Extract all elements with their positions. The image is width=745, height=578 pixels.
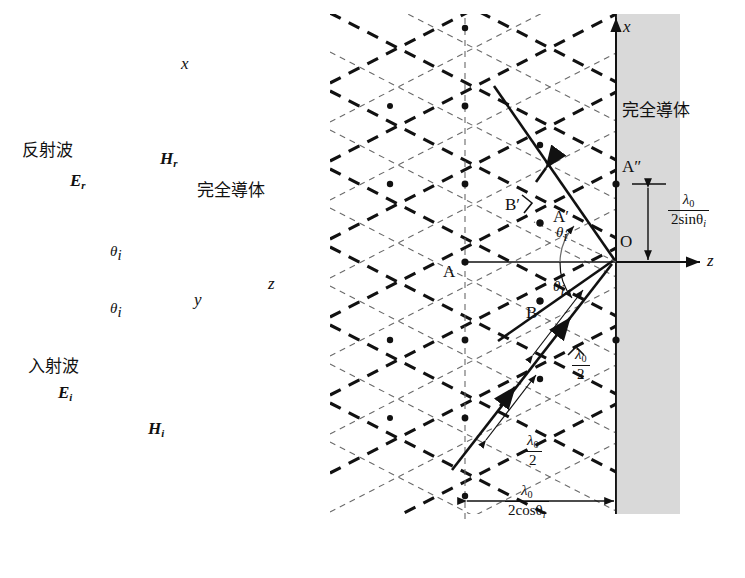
left-incident-wave-label: 入射波: [28, 358, 79, 375]
right-z-axis-label: z: [707, 252, 714, 269]
right-incident-arrow-1: [500, 387, 515, 406]
left-Er-label: Er: [70, 172, 86, 191]
lattice-thick-family: [330, 0, 618, 551]
dim-halfwave-lower: [486, 375, 536, 440]
dim-horizontal-label: λ0 2cosθi: [505, 483, 549, 520]
right-panel-group: [0, 0, 745, 578]
figure-vector-layer: [0, 0, 745, 578]
left-y-axis-label: y: [194, 291, 202, 308]
point-A-prime-label: A′: [553, 208, 569, 225]
right-reflected-ray-2: [494, 86, 616, 262]
right-reflected-ray: [498, 260, 614, 341]
lattice-thin-family: [330, 0, 618, 578]
dim-vertical-label: λ0 2sinθi: [668, 192, 709, 229]
left-angle-lower-label: θi: [110, 300, 122, 320]
left-Hi-label: Hi: [148, 420, 164, 439]
point-O-label: O: [620, 233, 632, 250]
right-lattice-mask-left: [0, 0, 330, 578]
right-angle-upper-label: θi: [556, 224, 568, 244]
right-lattice-mask-bottom: [330, 514, 630, 578]
right-x-axis-label: x: [623, 18, 631, 35]
right-angle-lower-label: θi: [553, 278, 565, 298]
right-angle-mark-upper: [522, 195, 532, 213]
right-conductor-region-top: [616, 14, 680, 514]
halfwave-lower-label: λ0 2: [524, 433, 542, 468]
right-lattice-mask-top: [330, 0, 630, 14]
left-reflected-wave-label: 反射波: [22, 142, 73, 159]
figure-canvas: x z y 完全導体 反射波 入射波 Er Hr Ei Hi θi θi x z…: [0, 0, 745, 578]
left-x-axis-label: x: [181, 55, 189, 72]
left-z-axis-label: z: [268, 275, 275, 292]
left-Ei-label: Ei: [58, 384, 72, 403]
left-conductor-label: 完全導体: [197, 182, 265, 199]
point-B-label: B: [526, 304, 537, 321]
point-A-double-prime-label: A″: [622, 158, 641, 175]
point-B-prime-label: B′: [505, 196, 520, 213]
left-angle-upper-label: θi: [110, 243, 122, 263]
right-incident-arrow-2: [556, 318, 570, 336]
halfwave-upper-label: λ0 2: [572, 347, 590, 382]
left-Hr-label: Hr: [160, 150, 177, 169]
point-A-label: A: [443, 263, 455, 280]
right-conductor-label: 完全導体: [622, 102, 690, 119]
